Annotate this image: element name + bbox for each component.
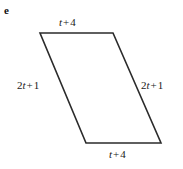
side-label-left-operator: + <box>26 79 34 91</box>
side-label-bottom: t+4 <box>109 148 126 161</box>
side-label-bottom-constant: 4 <box>120 148 126 160</box>
side-label-top: t+4 <box>59 16 76 29</box>
geometry-figure: e t+4 t+4 2t+1 2t+1 <box>0 0 183 169</box>
side-label-right-constant: 1 <box>158 79 164 91</box>
side-label-left-constant: 1 <box>34 79 40 91</box>
side-label-right: 2t+1 <box>141 79 163 92</box>
side-label-right-operator: + <box>150 79 158 91</box>
side-label-top-constant: 4 <box>70 16 76 28</box>
side-label-left: 2t+1 <box>17 79 39 92</box>
